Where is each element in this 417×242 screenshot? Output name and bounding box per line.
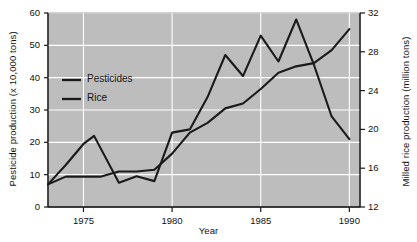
y-axis-left-title: Pesticide production (x 10,000 tons) <box>7 37 18 187</box>
x-axis-title: Year <box>0 225 417 236</box>
y-axis-right-tick-label: 16 <box>368 162 390 173</box>
y-axis-left-tick-label: 10 <box>20 169 40 180</box>
y-axis-left-tick-label: 20 <box>20 136 40 147</box>
y-axis-right-tick-label: 24 <box>368 85 390 96</box>
x-axis-tick-label: 1990 <box>331 215 367 226</box>
y-axis-right-title: Milled rice production (million tons) <box>400 37 411 187</box>
y-axis-left-tick-label: 30 <box>20 104 40 115</box>
y-axis-left-tick-label: 60 <box>20 7 40 18</box>
x-axis-tick-label: 1980 <box>154 215 190 226</box>
y-axis-left-tick-label: 0 <box>20 201 40 212</box>
legend-label-rice: Rice <box>87 92 107 103</box>
y-axis-right-tick-label: 32 <box>368 7 390 18</box>
y-axis-right-tick-label: 12 <box>368 201 390 212</box>
y-axis-right-tick-label: 28 <box>368 46 390 57</box>
y-axis-left-tick-label: 50 <box>20 39 40 50</box>
x-axis-tick-label: 1975 <box>65 215 101 226</box>
y-axis-right-tick-label: 20 <box>368 123 390 134</box>
x-axis-tick-label: 1985 <box>243 215 279 226</box>
line-chart: Pesticide production (x 10,000 tons) Mil… <box>0 0 417 242</box>
y-axis-left-tick-label: 40 <box>20 72 40 83</box>
plot-area <box>0 0 417 242</box>
legend-label-pesticides: Pesticides <box>87 73 133 84</box>
